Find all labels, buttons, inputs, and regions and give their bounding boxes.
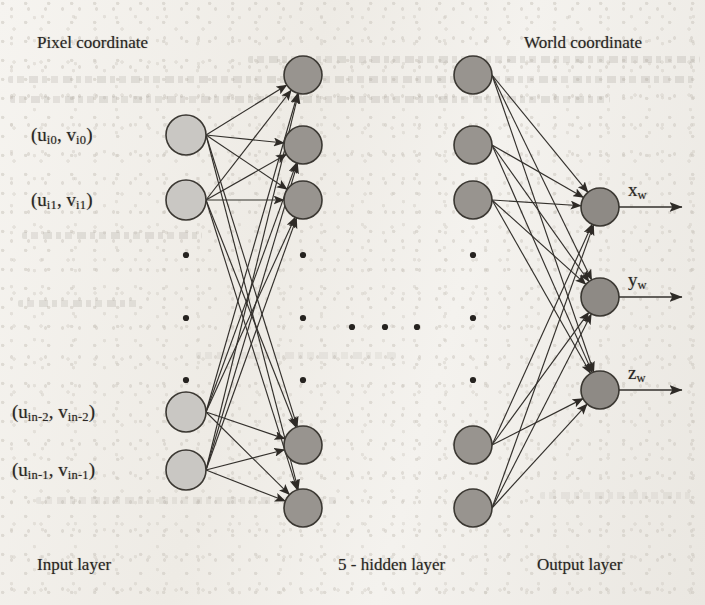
edge-input-2-hidden-3 (206, 412, 285, 439)
footer-hidden-layer: 5 - hidden layer (338, 556, 445, 573)
edge-input-2-hidden-2 (206, 217, 295, 412)
input-label-1-v-sub: i1 (76, 198, 86, 212)
hidden-column-ellipsis-dot-0 (349, 324, 355, 330)
input-label-3-v-sub: in-1 (68, 468, 89, 482)
input-label-1: (ui1, vi1) (31, 190, 92, 211)
hidden-layer-last-nodes (454, 56, 492, 527)
edge-hidden-2-output-2 (492, 200, 591, 373)
input-label-0-u-sub: i0 (47, 133, 57, 147)
footer-output-layer: Output layer (537, 556, 622, 573)
input-label-2-v-sub: in-2 (68, 410, 89, 424)
hidden-column-ellipsis-dot-2 (414, 324, 420, 330)
input-label-3-u-sub: in-1 (28, 468, 49, 482)
ellipsis-dots (183, 252, 476, 383)
input-node-1 (166, 180, 206, 220)
output-label-yw: yw (628, 270, 647, 291)
output-label-zw-sub: w (636, 371, 645, 385)
hidden-last-node-4 (454, 489, 492, 527)
pixel-coordinate-title: Pixel coordinate (37, 34, 148, 51)
hidden-first-ellipsis-dot-0 (300, 252, 306, 258)
edge-input-0-hidden-1 (206, 135, 284, 143)
hidden-layer-first-nodes (284, 56, 322, 527)
output-label-zw: zw (628, 363, 646, 384)
output-label-xw: xw (628, 180, 647, 201)
hidden-first-node-1 (284, 126, 322, 164)
hidden-first-node-4 (284, 489, 322, 527)
hidden-first-ellipsis-dot-2 (300, 377, 306, 383)
input-ellipsis-dot-2 (183, 377, 189, 383)
edge-hidden-4-output-2 (492, 404, 587, 508)
edge-input-0-hidden-0 (206, 85, 287, 135)
edge-input-3-hidden-3 (206, 450, 285, 470)
output-node-2 (581, 371, 619, 409)
output-node-0 (581, 188, 619, 226)
world-coordinate-title: World coordinate (524, 34, 642, 51)
hidden-first-node-0 (284, 56, 322, 94)
hidden-last-ellipsis-dot-2 (470, 377, 476, 383)
output-label-xw-base: x (628, 179, 638, 200)
hidden-first-node-3 (284, 426, 322, 464)
edge-input-3-hidden-4 (206, 470, 285, 501)
input-node-0 (166, 115, 206, 155)
input-ellipsis-dot-0 (183, 252, 189, 258)
output-label-yw-base: y (628, 269, 638, 290)
hidden-last-node-3 (454, 426, 492, 464)
input-node-2 (166, 392, 206, 432)
edge-hidden-0-output-2 (492, 75, 594, 372)
input-label-3-u: u (18, 459, 28, 480)
output-label-yw-sub: w (638, 278, 647, 292)
hidden-last-node-2 (454, 181, 492, 219)
network-graph (0, 0, 705, 605)
hidden-last-node-1 (454, 126, 492, 164)
edge-input-3-hidden-1 (206, 163, 298, 470)
input-label-0-u: u (37, 124, 47, 145)
output-node-1 (581, 278, 619, 316)
input-label-2-v: v (58, 401, 68, 422)
input-label-1-u-sub: i1 (47, 198, 57, 212)
figure-canvas: Pixel coordinate World coordinate (ui0, … (0, 0, 705, 605)
hidden-first-ellipsis-dot-1 (300, 315, 306, 321)
edges-hidden-to-output (492, 75, 594, 508)
input-label-1-v: v (66, 189, 76, 210)
input-label-2-u-sub: in-2 (28, 410, 49, 424)
edge-hidden-4-output-0 (492, 225, 594, 508)
input-node-3 (166, 450, 206, 490)
input-label-0-v: v (66, 124, 76, 145)
output-layer-nodes (581, 188, 619, 409)
input-label-2: (uin-2, vin-2) (12, 402, 95, 423)
edge-hidden-3-output-1 (492, 312, 589, 445)
hidden-column-ellipsis-dot-1 (382, 324, 388, 330)
hidden-last-node-0 (454, 56, 492, 94)
input-ellipsis-dot-1 (183, 315, 189, 321)
input-label-3: (uin-1, vin-1) (12, 460, 95, 481)
hidden-last-ellipsis-dot-1 (470, 315, 476, 321)
input-layer-nodes (166, 115, 206, 490)
input-label-0-v-sub: i0 (76, 133, 86, 147)
input-label-1-u: u (37, 189, 47, 210)
input-label-0: (ui0, vi0) (31, 125, 92, 146)
hidden-first-node-2 (284, 181, 322, 219)
footer-input-layer: Input layer (37, 556, 111, 573)
edge-hidden-1-output-0 (492, 145, 584, 198)
input-label-3-v: v (58, 459, 68, 480)
hidden-last-ellipsis-dot-0 (470, 252, 476, 258)
edge-hidden-3-output-2 (492, 399, 583, 445)
edge-hidden-0-output-1 (492, 75, 592, 280)
output-label-xw-sub: w (638, 188, 647, 202)
input-label-2-u: u (18, 401, 28, 422)
